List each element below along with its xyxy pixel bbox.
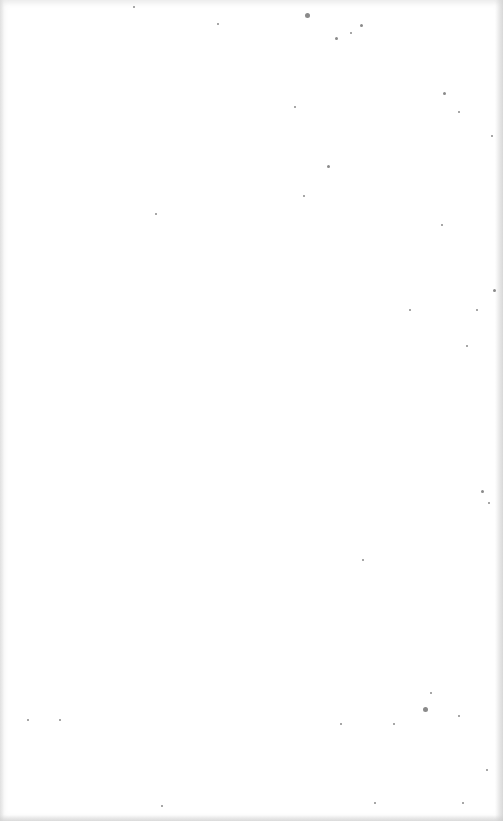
speck: [360, 24, 363, 27]
speck: [481, 490, 484, 493]
speck: [443, 92, 446, 95]
speck: [340, 723, 342, 725]
speck: [476, 309, 478, 311]
speck: [430, 692, 432, 694]
speck: [466, 345, 468, 347]
scan-edge-right: [495, 0, 503, 821]
speck: [335, 37, 338, 40]
speck: [161, 805, 163, 807]
speck: [217, 23, 219, 25]
speck: [409, 309, 411, 311]
speck: [491, 135, 493, 137]
speck: [305, 13, 310, 18]
scan-edge-bottom: [0, 815, 503, 821]
speck: [362, 559, 364, 561]
speck: [327, 165, 330, 168]
speck: [462, 802, 464, 804]
speck: [393, 723, 395, 725]
speck: [27, 719, 29, 721]
speck: [493, 289, 496, 292]
speck: [133, 6, 135, 8]
speck: [441, 224, 443, 226]
speck: [423, 707, 428, 712]
speck: [458, 111, 460, 113]
speck: [303, 195, 305, 197]
scan-edge-left: [0, 0, 4, 821]
speck: [294, 106, 296, 108]
speck: [486, 769, 488, 771]
speck: [458, 715, 460, 717]
blank-scanned-page: [0, 0, 503, 821]
speck: [374, 802, 376, 804]
speck: [350, 32, 352, 34]
speck: [155, 213, 157, 215]
speck: [59, 719, 61, 721]
speck: [488, 502, 490, 504]
